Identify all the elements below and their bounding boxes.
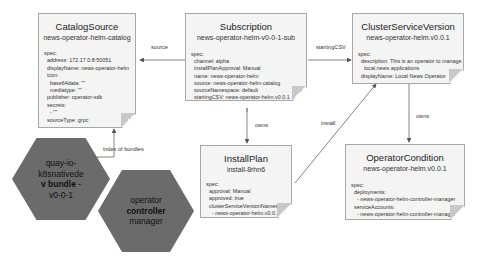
catalog-source-name: news-operator-helm-catalog bbox=[39, 34, 135, 41]
edge-label-owns-installplan: owns bbox=[255, 122, 268, 128]
catalog-source-title: CatalogSource bbox=[39, 21, 135, 32]
controller-line-3: manager bbox=[126, 216, 165, 227]
controller-line-1: operator bbox=[126, 195, 165, 206]
subscription-title: Subscription bbox=[186, 21, 306, 32]
subscription-spec: spec: channel: alpha installPlanApproval… bbox=[191, 51, 306, 101]
install-plan-node[interactable]: InstallPlan install-8rhn6 spec: approval… bbox=[200, 145, 292, 218]
edge-label-starting-csv: startingCSV bbox=[316, 44, 346, 50]
csv-title: ClusterServiceVersion bbox=[353, 21, 463, 32]
controller-line-2-bold: controller bbox=[126, 206, 165, 216]
bundle-line-3-bold: v bundle bbox=[41, 179, 76, 189]
bundle-line-1: quay-io- bbox=[38, 158, 83, 169]
edge-label-owns-condition: owns bbox=[416, 113, 429, 119]
bundle-line-4: v0-0-1 bbox=[38, 190, 83, 201]
csv-name: news-operator-helm.v0.0.1 bbox=[353, 34, 463, 41]
csv-spec: spec: description: This is an operator t… bbox=[358, 51, 463, 80]
bundle-line-2: k8snativede bbox=[38, 169, 83, 180]
cluster-service-version-node[interactable]: ClusterServiceVersion news-operator-helm… bbox=[352, 13, 464, 84]
bundle-line-3-rest: - bbox=[76, 179, 81, 189]
subscription-node[interactable]: Subscription news-operator-helm-v0-0-1-s… bbox=[185, 13, 307, 101]
operator-condition-spec: spec: deployments: - news-operator-helm-… bbox=[351, 182, 464, 218]
operator-condition-name: news-operator-helm.v0.0.1 bbox=[346, 165, 464, 172]
install-plan-title: InstallPlan bbox=[201, 153, 291, 164]
edge-label-source: source bbox=[151, 44, 168, 50]
subscription-name: news-operator-helm-v0-0-1-sub bbox=[186, 34, 306, 41]
edge-label-install: install bbox=[321, 120, 335, 126]
operator-condition-node[interactable]: OperatorCondition news-operator-helm.v0.… bbox=[345, 144, 465, 220]
operator-condition-title: OperatorCondition bbox=[346, 152, 464, 163]
edge-label-index-of-bundles: index of bundles bbox=[103, 146, 144, 152]
catalog-source-node[interactable]: CatalogSource news-operator-helm-catalog… bbox=[38, 13, 136, 128]
install-plan-name: install-8rhn6 bbox=[201, 166, 291, 173]
